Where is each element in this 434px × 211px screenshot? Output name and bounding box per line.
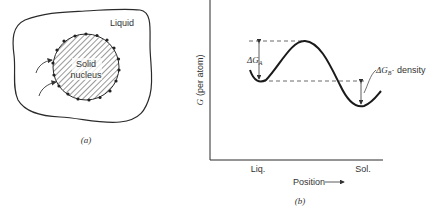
delta-gb-label: ΔGB· density xyxy=(375,65,426,76)
nucleus-label-line2: nucleus xyxy=(70,70,102,80)
liquid-label: Liquid xyxy=(110,18,134,28)
x-tick-liquid: Liq. xyxy=(251,164,266,174)
panel-b: G(per atom) ΔGA ΔGB· density Liq. Sol. P… xyxy=(195,0,426,206)
y-axis-label: G(per atom) xyxy=(195,54,205,105)
x-tick-solid: Sol. xyxy=(355,164,371,174)
caption-b: (b) xyxy=(295,196,306,206)
x-axis-label: Position xyxy=(293,177,325,187)
delta-ga-label: ΔGA xyxy=(246,55,263,66)
caption-a: (a) xyxy=(81,135,92,145)
nucleus-label-line1: Solid xyxy=(76,59,96,69)
attachment-arrow-2 xyxy=(39,82,56,96)
figure-canvas: Liquid Solid nucleus (a) G(per atom) ΔGA… xyxy=(0,0,434,211)
delta-gb-leader xyxy=(364,70,376,93)
attachment-arrow-1 xyxy=(36,60,52,73)
panel-a: Liquid Solid nucleus (a) xyxy=(13,9,152,145)
